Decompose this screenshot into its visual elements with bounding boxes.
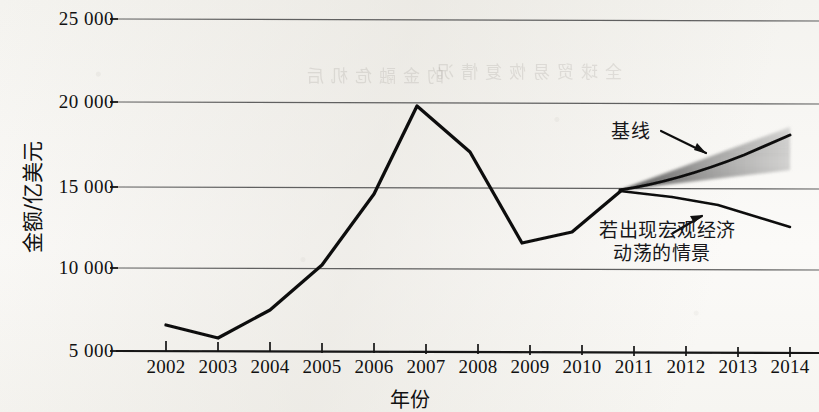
x-tick-label-2010: 2010 (562, 356, 601, 378)
historical-trade-line (166, 106, 622, 338)
gridline-20000 (118, 102, 819, 104)
chart-page: 的金融危机后 全球贸易恢复情况 (0, 0, 819, 412)
x-tick-label-2013: 2013 (718, 356, 757, 378)
annotation-shock-label: 若出现宏观经济 动荡的情景 (599, 219, 736, 265)
x-tick-label-2005: 2005 (302, 356, 341, 378)
x-tick-label-2014: 2014 (770, 356, 809, 378)
baseline-arrow-head (694, 143, 707, 154)
x-tick-label-2006: 2006 (354, 356, 393, 378)
annotation-shock-line1: 若出现宏观经济 (599, 219, 736, 242)
x-tick-label-2011: 2011 (615, 356, 654, 378)
y-tick-label-5000: 5 000 (69, 341, 114, 360)
x-tick-label-2007: 2007 (406, 356, 445, 378)
gridline-25000 (118, 19, 819, 21)
x-axis-line (116, 351, 819, 353)
annotation-baseline-label: 基线 (611, 120, 650, 143)
x-tick-label-2009: 2009 (510, 356, 549, 378)
y-tick-label-10000: 10 000 (59, 258, 114, 277)
x-tick-label-2008: 2008 (458, 356, 497, 378)
x-tick-label-2003: 2003 (198, 356, 237, 378)
gridline-10000 (118, 268, 819, 270)
line-chart-plot (0, 0, 819, 412)
x-tick-label-2004: 2004 (250, 356, 289, 378)
y-axis-title: 金额/亿美元 (16, 82, 46, 312)
annotation-shock-line2: 动荡的情景 (599, 242, 736, 265)
x-tick-label-2002: 2002 (146, 356, 185, 378)
y-tick-label-15000: 15 000 (59, 177, 114, 196)
y-tick-label-20000: 20 000 (59, 92, 114, 111)
gridline-15000 (118, 187, 819, 189)
x-tick-label-2012: 2012 (666, 356, 705, 378)
x-tick-marks (166, 341, 790, 357)
y-tick-label-25000: 25 000 (59, 9, 114, 28)
x-axis-title: 年份 (0, 384, 819, 412)
